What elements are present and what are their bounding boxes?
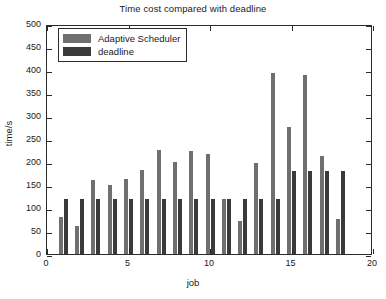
bar-deadline-job-4: [113, 199, 117, 254]
bar-adaptive-scheduler-job-12: [238, 221, 242, 254]
y-tick-right-0: [366, 256, 371, 257]
bar-deadline-job-12: [243, 199, 247, 254]
y-tick-label-450: 450: [0, 42, 41, 52]
y-tick-label-150: 150: [0, 180, 41, 190]
x-tick-10: [210, 249, 211, 254]
legend-item-adaptive-scheduler: Adaptive Scheduler: [63, 32, 180, 45]
bar-deadline-job-11: [227, 199, 231, 254]
y-tick-100: [47, 210, 52, 211]
y-tick-right-350: [366, 95, 371, 96]
legend-swatch-icon-series-0: [63, 34, 91, 43]
legend-label: deadline: [98, 46, 134, 57]
bar-adaptive-scheduler-job-9: [189, 151, 193, 254]
bar-adaptive-scheduler-job-2: [75, 226, 79, 254]
bar-adaptive-scheduler-job-5: [124, 179, 128, 254]
x-tick-label-20: 20: [357, 258, 386, 268]
x-tick-label-5: 5: [113, 258, 143, 268]
x-tick-label-10: 10: [194, 258, 224, 268]
bar-deadline-job-9: [194, 199, 198, 254]
x-tick-5: [129, 249, 130, 254]
y-tick-200: [47, 164, 52, 165]
y-tick-right-300: [366, 118, 371, 119]
bar-adaptive-scheduler-job-1: [59, 217, 63, 254]
y-tick-label-100: 100: [0, 203, 41, 213]
y-tick-right-400: [366, 72, 371, 73]
y-tick-right-200: [366, 164, 371, 165]
y-tick-label-50: 50: [0, 226, 41, 236]
bar-adaptive-scheduler-job-8: [173, 162, 177, 254]
y-tick-label-300: 300: [0, 111, 41, 121]
y-tick-450: [47, 49, 52, 50]
chart-legend: Adaptive Scheduler deadline: [58, 28, 187, 62]
chart-figure: Time cost compared with deadline time/s …: [0, 0, 386, 299]
legend-item-deadline: deadline: [63, 45, 180, 58]
bar-deadline-job-14: [276, 199, 280, 254]
chart-title: Time cost compared with deadline: [0, 3, 386, 14]
bar-deadline-job-15: [292, 171, 296, 254]
x-tick-15: [292, 249, 293, 254]
x-axis-label: job: [0, 277, 386, 288]
y-tick-label-200: 200: [0, 157, 41, 167]
y-tick-label-400: 400: [0, 65, 41, 75]
bar-deadline-job-10: [211, 199, 215, 254]
y-tick-label-350: 350: [0, 88, 41, 98]
bar-adaptive-scheduler-job-18: [336, 219, 340, 254]
bar-adaptive-scheduler-job-10: [206, 154, 210, 254]
x-tick-top-15: [292, 26, 293, 31]
y-tick-400: [47, 72, 52, 73]
y-tick-right-50: [366, 233, 371, 234]
y-tick-150: [47, 187, 52, 188]
legend-swatch-icon-series-1: [63, 47, 91, 56]
bar-adaptive-scheduler-job-4: [108, 185, 112, 254]
bar-adaptive-scheduler-job-7: [157, 150, 161, 254]
bar-deadline-job-3: [96, 199, 100, 254]
bar-adaptive-scheduler-job-13: [254, 163, 258, 254]
bar-deadline-job-13: [259, 199, 263, 254]
x-tick-top-0: [47, 26, 48, 31]
bar-deadline-job-1: [64, 199, 68, 254]
x-tick-top-10: [210, 26, 211, 31]
y-tick-right-500: [366, 26, 371, 27]
bar-deadline-job-7: [162, 199, 166, 254]
bar-deadline-job-6: [145, 199, 149, 254]
bar-adaptive-scheduler-job-14: [271, 73, 275, 254]
legend-label: Adaptive Scheduler: [98, 33, 180, 44]
y-tick-300: [47, 118, 52, 119]
y-tick-right-250: [366, 141, 371, 142]
y-tick-label-250: 250: [0, 134, 41, 144]
bar-adaptive-scheduler-job-11: [222, 199, 226, 254]
bar-deadline-job-2: [80, 199, 84, 254]
y-tick-right-100: [366, 210, 371, 211]
bar-deadline-job-16: [308, 171, 312, 254]
bar-adaptive-scheduler-job-3: [91, 180, 95, 254]
bar-deadline-job-5: [129, 199, 133, 254]
y-tick-350: [47, 95, 52, 96]
y-tick-0: [47, 256, 52, 257]
y-tick-50: [47, 233, 52, 234]
y-tick-label-500: 500: [0, 19, 41, 29]
x-tick-label-15: 15: [276, 258, 306, 268]
x-tick-0: [47, 249, 48, 254]
y-tick-250: [47, 141, 52, 142]
bar-deadline-job-8: [178, 199, 182, 254]
x-tick-label-0: 0: [31, 258, 61, 268]
y-tick-right-150: [366, 187, 371, 188]
bar-deadline-job-18: [341, 171, 345, 254]
bar-adaptive-scheduler-job-15: [287, 127, 291, 254]
bar-adaptive-scheduler-job-6: [140, 170, 144, 254]
bar-adaptive-scheduler-job-16: [303, 75, 307, 254]
y-tick-right-450: [366, 49, 371, 50]
bar-adaptive-scheduler-job-17: [320, 156, 324, 254]
x-tick-20: [373, 249, 374, 254]
x-tick-top-20: [373, 26, 374, 31]
bar-deadline-job-17: [325, 171, 329, 254]
